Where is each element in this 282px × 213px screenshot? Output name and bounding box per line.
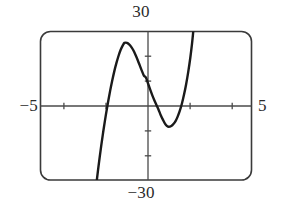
calculator-viewing-window <box>0 0 282 213</box>
x-min-label: −5 <box>4 97 38 114</box>
y-max-label: 30 <box>0 3 282 20</box>
y-min-label: −30 <box>0 184 282 201</box>
x-max-label: 5 <box>258 97 280 114</box>
graph-figure: 30 −30 −5 5 <box>0 0 282 213</box>
